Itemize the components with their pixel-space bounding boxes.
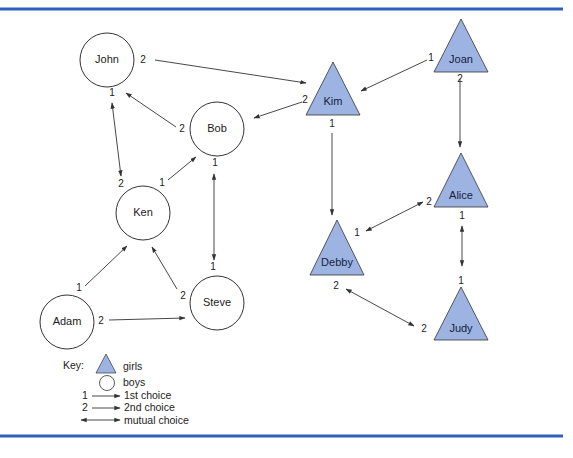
rank-label: 1 [354,227,360,238]
legend-first-choice: 1st choice [124,389,171,401]
node-label: Bob [207,122,227,134]
legend-title: Key: [63,359,84,371]
legend-boys: boys [123,376,145,388]
node-label: Steve [203,296,231,308]
sociogram-diagram: John Bob Ken Adam Steve Kim Joan Alice D… [0,0,573,458]
edge-steve-ken [152,247,177,289]
edge-joan-kim [361,60,427,91]
node-alice: Alice [434,153,488,207]
rank-label: 1 [210,261,216,272]
edge-adam-steve [109,318,185,320]
edge-john-ken-mutual [112,103,121,176]
rank-label: 2 [179,123,185,134]
node-bob: Bob [190,102,244,156]
rank-label: 2 [426,196,432,207]
node-adam: Adam [40,295,94,349]
node-steve: Steve [190,276,244,330]
legend-mutual-choice: mutual choice [124,414,189,426]
node-label: Judy [449,322,473,334]
boy-circle-icon [100,376,115,391]
rank-label: 1 [159,177,165,188]
rank-label: 2 [98,315,104,326]
rank-label: 2 [333,280,339,291]
node-label: John [95,53,119,65]
legend-second-num: 2 [82,401,88,413]
rank-label: 1 [212,157,218,168]
rank-label: 1 [458,275,464,286]
rank-label: 2 [302,94,308,105]
rank-label: 2 [180,290,186,301]
node-label: Ken [133,206,153,218]
node-label: Adam [53,315,82,327]
node-label: Debby [321,256,353,268]
edge-adam-ken [85,246,127,286]
legend-girls: girls [123,360,142,372]
edge-ken-bob [168,157,196,180]
rank-label: 2 [421,323,427,334]
rank-label: 2 [457,73,463,84]
node-label: Alice [449,189,473,201]
node-ken: Ken [116,186,170,240]
node-kim: Kim [306,62,360,115]
edge-john-kim [155,60,306,83]
legend-first-num: 1 [82,389,88,401]
rank-label: 2 [140,54,146,65]
edge-kim-bob [254,102,302,118]
node-judy: Judy [434,287,488,340]
node-john: John [80,33,134,87]
node-label: Joan [449,53,473,65]
edge-bob-john [126,93,176,127]
rank-label: 1 [329,118,335,129]
edge-alice-debby-mutual [366,202,423,231]
edge-debby-judy-mutual [346,289,414,326]
legend-second-choice: 2nd choice [124,401,175,413]
rank-label: 1 [459,210,465,221]
rank-label: 1 [109,87,115,98]
rank-label: 1 [76,282,82,293]
rank-label: 2 [118,178,124,189]
girl-triangle-icon [96,354,116,373]
legend: Key: girls boys 1 1st choice 2 2nd choic… [63,354,189,426]
rank-label: 1 [428,52,434,63]
node-label: Kim [324,95,343,107]
node-joan: Joan [434,19,488,72]
